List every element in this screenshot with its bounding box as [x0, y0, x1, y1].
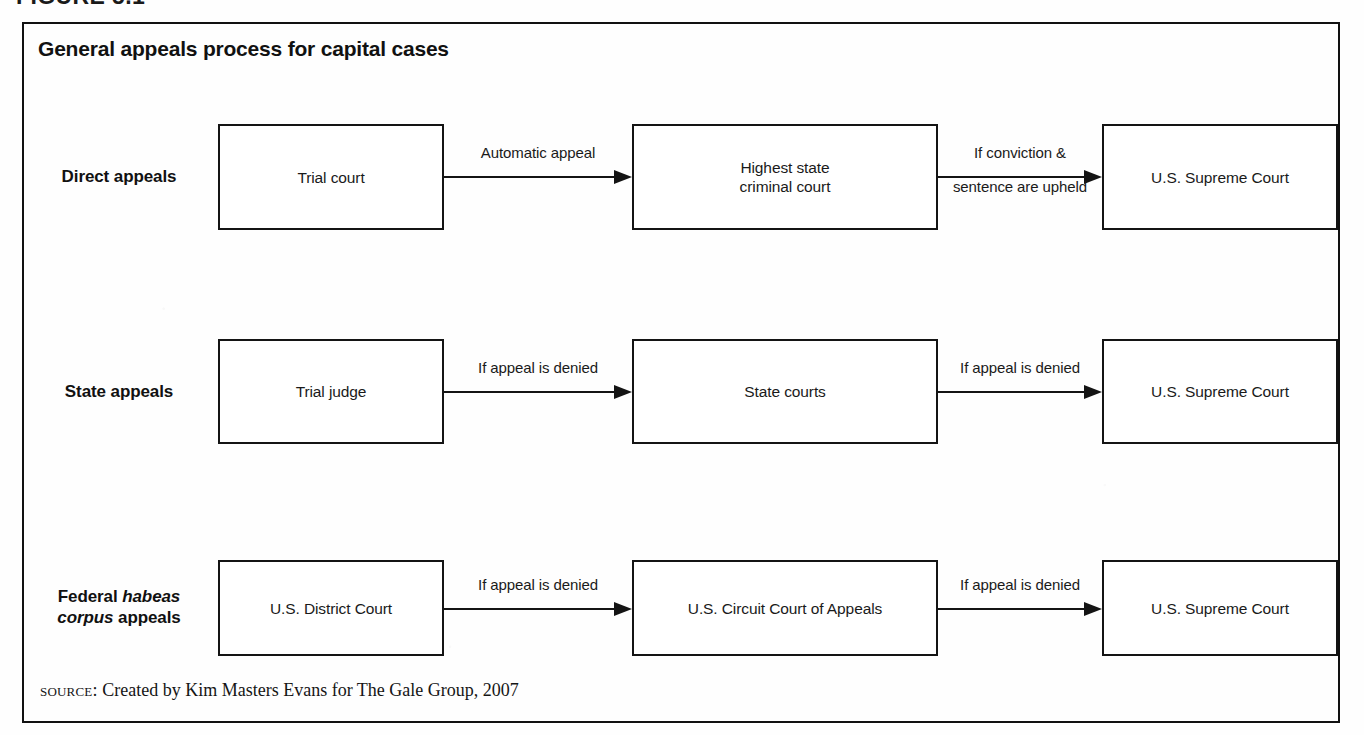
node-label: U.S. Circuit Court of Appeals	[688, 599, 882, 618]
row-label-federal-habeas-corpus-appeals: Federal habeascorpus appeals	[24, 586, 214, 628]
row-label-direct-appeals: Direct appeals	[24, 166, 214, 187]
node-trial-court: Trial court	[218, 124, 444, 230]
edge-caption-if-appeal-is-denied: If appeal is denied	[444, 359, 632, 377]
edge-caption-if-appeal-is-denied: If appeal is denied	[938, 576, 1102, 594]
edge-caption-above: If appeal is denied	[478, 576, 598, 593]
edge-caption-below: sentence are upheld	[930, 178, 1110, 196]
node-us-supreme-court: U.S. Supreme Court	[1102, 339, 1338, 444]
node-us-district-court: U.S. District Court	[218, 560, 444, 656]
figure-title: General appeals process for capital case…	[38, 37, 449, 61]
edge-caption-above: If appeal is denied	[478, 359, 598, 376]
node-label: U.S. Supreme Court	[1151, 168, 1289, 187]
figure-page: FIGURE 5.1 General appeals process for c…	[0, 0, 1364, 735]
source-text: Created by Kim Masters Evans for The Gal…	[102, 680, 519, 700]
edge-caption-automatic-appeal: Automatic appeal	[444, 144, 632, 162]
node-us-circuit-court-of-appeals: U.S. Circuit Court of Appeals	[632, 560, 938, 656]
arrow-right-icon	[938, 383, 1102, 401]
source-note: source: Created by Kim Masters Evans for…	[40, 680, 519, 701]
edge-caption-above: If appeal is denied	[960, 576, 1080, 593]
node-state-courts: State courts	[632, 339, 938, 444]
arrow-right-icon	[938, 600, 1102, 618]
arrow-right-icon	[444, 600, 632, 618]
edge-caption-above: Automatic appeal	[481, 144, 595, 161]
edge-caption-if-appeal-is-denied: If appeal is denied	[938, 359, 1102, 377]
source-label: source:	[40, 680, 98, 700]
row-label-state-appeals: State appeals	[24, 381, 214, 402]
node-label: U.S. District Court	[270, 599, 392, 618]
node-trial-judge: Trial judge	[218, 339, 444, 444]
node-label: Trial court	[297, 168, 364, 187]
edge-caption-if-conviction-and-sentence-are-upheld: If conviction & sentence are upheld	[930, 144, 1110, 196]
node-label: U.S. Supreme Court	[1151, 599, 1289, 618]
arrow-right-icon	[444, 383, 632, 401]
node-label: U.S. Supreme Court	[1151, 382, 1289, 401]
node-label: Trial judge	[296, 382, 367, 401]
edge-caption-above: If conviction &	[974, 144, 1066, 161]
arrow-right-icon	[444, 168, 632, 186]
node-us-supreme-court: U.S. Supreme Court	[1102, 560, 1338, 656]
figure-number-header: FIGURE 5.1	[16, 0, 145, 5]
edge-caption-above: If appeal is denied	[960, 359, 1080, 376]
node-highest-state-criminal-court: Highest state criminal court	[632, 124, 938, 230]
node-us-supreme-court: U.S. Supreme Court	[1102, 124, 1338, 230]
node-label: State courts	[744, 382, 826, 401]
edge-caption-if-appeal-is-denied: If appeal is denied	[444, 576, 632, 594]
node-label: Highest state criminal court	[740, 158, 831, 196]
